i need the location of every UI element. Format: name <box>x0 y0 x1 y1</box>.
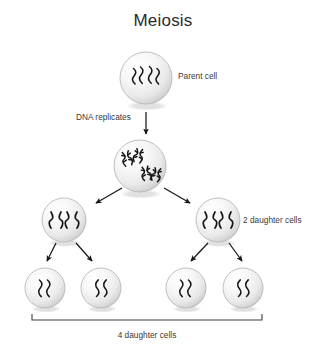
daughter-cell-right <box>196 198 240 242</box>
four-daughter-cells-label: 4 daughter cells <box>118 330 177 340</box>
daughter-cell-right-group <box>196 198 240 247</box>
granddaughter-cell-2-group <box>81 268 121 313</box>
two-daughter-cells-label: 2 daughter cells <box>243 215 302 225</box>
arrow-to-left-daughter <box>96 188 122 203</box>
daughter-cell-left <box>42 198 86 242</box>
arrow-right-to-granddaughter-3 <box>191 243 208 261</box>
daughter-cell-left-group <box>42 198 86 247</box>
parent-cell <box>120 52 172 104</box>
granddaughter-cell-4 <box>223 268 263 308</box>
meiosis-diagram-canvas: Meiosis Parent cell DNA replicates <box>0 0 327 349</box>
four-daughter-cells-bracket <box>32 314 262 320</box>
arrow-right-to-granddaughter-4 <box>229 243 242 261</box>
arrow-to-right-daughter <box>164 188 190 203</box>
granddaughter-cell-3 <box>166 268 206 308</box>
replicated-cell <box>114 140 166 192</box>
granddaughter-cell-1-group <box>25 268 65 313</box>
granddaughter-cell-1 <box>25 268 65 308</box>
granddaughter-cell-2 <box>81 268 121 308</box>
meiosis-diagram: Meiosis Parent cell DNA replicates <box>0 0 327 349</box>
arrow-left-to-granddaughter-2 <box>76 243 92 261</box>
parent-cell-label: Parent cell <box>178 71 217 81</box>
granddaughter-cell-4-group <box>223 268 263 313</box>
replicated-cell-group <box>114 140 166 199</box>
parent-cell-group <box>120 52 172 111</box>
arrow-left-to-granddaughter-1 <box>47 243 56 261</box>
page-title: Meiosis <box>133 11 192 30</box>
granddaughter-cell-3-group <box>166 268 206 313</box>
dna-replicates-label: DNA replicates <box>76 112 131 122</box>
